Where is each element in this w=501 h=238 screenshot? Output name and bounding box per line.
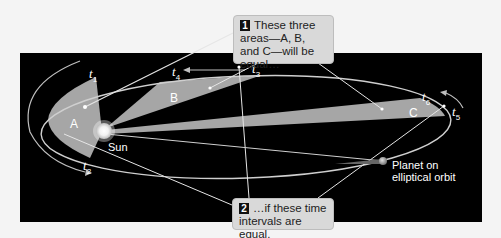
callout-equal-time-intervals: 2…if these time intervals are equal. bbox=[232, 198, 334, 230]
callout-text: These three areas—A, B, and C—will be eq… bbox=[240, 19, 315, 70]
planet-icon bbox=[379, 157, 387, 165]
callout-number-badge: 1 bbox=[240, 20, 250, 31]
sector-a-label: A bbox=[70, 117, 78, 131]
callout-equal-areas: 1These three areas—A, B, and C—will be e… bbox=[233, 15, 334, 64]
sector-b-label: B bbox=[170, 91, 178, 105]
kepler-second-law-diagram: A B C Sun Planet on elliptical orbit t1 … bbox=[0, 0, 501, 238]
arrow-t4 bbox=[183, 67, 190, 73]
planet-label: Planet on elliptical orbit bbox=[392, 159, 462, 183]
planet-trail bbox=[335, 159, 382, 164]
time-label-t5: t5 bbox=[452, 104, 460, 122]
sun-label: Sun bbox=[108, 141, 128, 153]
sector-c-label: C bbox=[409, 106, 418, 120]
callout-number-badge: 2 bbox=[239, 203, 249, 214]
sun-icon bbox=[93, 120, 115, 142]
leader-1-c bbox=[318, 63, 382, 109]
arrow-t6 bbox=[440, 90, 447, 96]
time-label-t1: t1 bbox=[89, 66, 97, 84]
time-label-t2: t2 bbox=[83, 158, 91, 176]
time-label-t6: t6 bbox=[422, 89, 430, 107]
time-label-t4: t4 bbox=[172, 64, 180, 82]
